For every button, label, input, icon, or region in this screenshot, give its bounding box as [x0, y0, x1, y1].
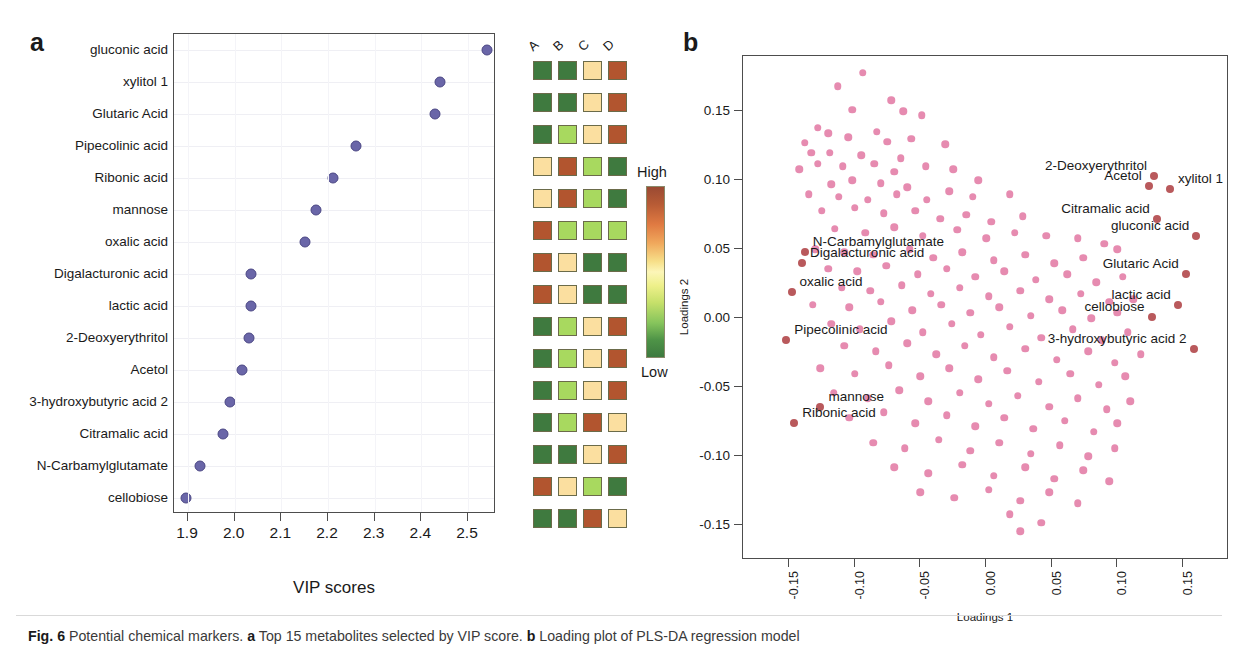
loading-point — [884, 138, 892, 146]
x-axis-tick — [788, 559, 789, 567]
heatmap-cell — [583, 253, 602, 272]
x-axis-tick — [985, 559, 986, 567]
x-axis-tick — [234, 513, 235, 521]
figure-caption-b-text: Loading plot of PLS-DA regression model — [539, 628, 799, 644]
metabolite-label: cellobiose — [108, 490, 168, 505]
heatmap-cell — [533, 253, 552, 272]
gridline-vertical — [235, 34, 236, 512]
loading-point-label: xylitol 1 — [1178, 170, 1223, 185]
vip-score-point — [246, 301, 257, 312]
heatmap-column-header: B — [550, 37, 566, 54]
loading-point — [1016, 497, 1024, 505]
loading-point — [809, 301, 817, 309]
loading-point — [1074, 500, 1082, 508]
heatmap-cell — [533, 61, 552, 80]
loading-point — [1127, 397, 1135, 405]
loading-point — [924, 469, 932, 477]
loading-point-label: mannose — [828, 388, 884, 403]
figure-caption-b-tag: b — [527, 628, 536, 644]
loading-point — [932, 351, 940, 359]
loading-point — [826, 149, 834, 157]
loading-point — [896, 386, 904, 394]
heatmap-cell — [583, 61, 602, 80]
heatmap-cell — [558, 509, 577, 528]
gridline-vertical — [375, 34, 376, 512]
loading-point — [859, 69, 867, 77]
heatmap-cell — [608, 381, 627, 400]
loading-point — [1121, 373, 1129, 381]
loading-point — [1111, 444, 1119, 452]
loading-point-highlighted — [1182, 270, 1190, 278]
loading-point — [1011, 229, 1019, 237]
metabolite-label: lactic acid — [109, 298, 168, 313]
heatmap-cell — [583, 509, 602, 528]
loading-point — [864, 196, 872, 204]
y-axis-tick — [734, 455, 742, 456]
heatmap-cell — [558, 477, 577, 496]
heatmap-cell — [583, 285, 602, 304]
loading-point — [1137, 351, 1145, 359]
vip-score-point — [194, 461, 205, 472]
loading-point-highlighted — [790, 419, 798, 427]
x-axis-tick — [467, 513, 468, 521]
heatmap-cell — [583, 413, 602, 432]
metabolite-label: mannose — [112, 202, 168, 217]
x-axis-tick-label: -0.15 — [787, 571, 801, 600]
y-axis-tick — [734, 386, 742, 387]
gridline — [174, 82, 494, 83]
heatmap-cell — [608, 125, 627, 144]
x-axis-tick — [187, 513, 188, 521]
loading-point — [857, 152, 865, 160]
figure-caption-a-text: Top 15 metabolites selected by VIP score… — [259, 628, 523, 644]
vip-score-point — [236, 365, 247, 376]
x-axis-tick — [1182, 559, 1183, 567]
loading-point — [1022, 251, 1030, 259]
heatmap-cell — [558, 93, 577, 112]
loading-point — [834, 83, 842, 91]
loading-point — [1087, 315, 1095, 323]
loading-point — [985, 486, 993, 494]
panel-b-y-axis-title: Loadings 2 — [678, 279, 690, 335]
loading-point — [909, 306, 917, 314]
gridline — [174, 274, 494, 275]
heatmap-cell — [533, 189, 552, 208]
loading-point — [898, 281, 906, 289]
figure-6: a gluconic acidxylitol 1Glutaric AcidPip… — [0, 0, 1238, 660]
loading-point — [945, 364, 953, 372]
loading-point — [985, 293, 993, 301]
vip-score-point — [351, 141, 362, 152]
loading-point — [893, 190, 901, 198]
figure-caption-label: Fig. 6 — [28, 628, 65, 644]
heatmap-cell — [608, 157, 627, 176]
heatmap-cell — [533, 477, 552, 496]
loading-point — [1014, 392, 1022, 400]
loading-point — [880, 210, 888, 218]
x-axis-tick-label: 1.9 — [176, 524, 198, 542]
y-axis-tick-label: 0.10 — [704, 172, 730, 187]
heatmap-cell — [583, 381, 602, 400]
heatmap-cell — [533, 285, 552, 304]
x-axis-tick-label: 2.5 — [456, 524, 478, 542]
loading-point — [951, 494, 959, 502]
loading-point-highlighted — [1166, 185, 1174, 193]
vip-score-point — [180, 493, 191, 504]
heatmap-cell — [608, 61, 627, 80]
loading-point-highlighted — [1192, 232, 1200, 240]
loading-point — [990, 353, 998, 361]
gridline — [174, 306, 494, 307]
loading-point-label: oxalic acid — [800, 274, 863, 289]
loading-point — [1085, 453, 1093, 461]
y-axis-tick-label: -0.10 — [699, 448, 730, 463]
loading-point — [1032, 276, 1040, 284]
loading-point — [1037, 334, 1045, 342]
y-axis-tick-label: 0.15 — [704, 103, 730, 118]
gridline-vertical — [468, 34, 469, 512]
figure-caption-a-tag: a — [247, 628, 255, 644]
loading-point — [1056, 442, 1064, 450]
heatmap-cell — [533, 509, 552, 528]
loading-point — [922, 163, 930, 171]
gridline — [174, 114, 494, 115]
heatmap-cell — [583, 93, 602, 112]
metabolite-label: Ribonic acid — [94, 170, 168, 185]
gridline-vertical — [281, 34, 282, 512]
